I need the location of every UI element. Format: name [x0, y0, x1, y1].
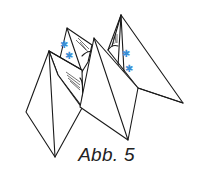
figure-caption: Abb. 5	[0, 144, 197, 166]
star-icon: ✱	[122, 48, 130, 59]
star-icon: ✱	[60, 39, 68, 50]
star-icon: ✱	[65, 50, 73, 61]
star-icon: ✱	[125, 63, 133, 74]
